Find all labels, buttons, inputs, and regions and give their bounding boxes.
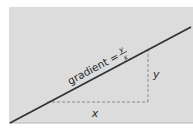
gradient-diagram: x y gradient = y x — [0, 0, 193, 128]
y-label: y — [152, 68, 160, 81]
x-label: x — [91, 107, 99, 120]
diagram-canvas: x y gradient = y x — [0, 0, 193, 128]
